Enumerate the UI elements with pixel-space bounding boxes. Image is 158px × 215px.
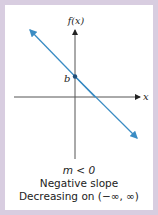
slope-condition: m < 0 xyxy=(5,164,153,177)
slope-description: Negative slope xyxy=(5,177,153,190)
intercept-label: b xyxy=(64,73,70,84)
y-axis-label: f(x) xyxy=(67,15,85,26)
interval-description: Decreasing on (−∞, ∞) xyxy=(5,190,153,203)
y-intercept-point xyxy=(73,74,77,78)
decreasing-line-lower xyxy=(75,76,137,138)
x-axis-label: x xyxy=(143,91,149,102)
